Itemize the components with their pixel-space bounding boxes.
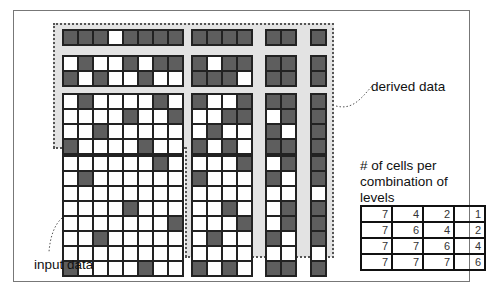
counts-row: 7776 — [361, 254, 485, 270]
counts-cell: 2 — [423, 206, 454, 222]
input-data-label: input data — [34, 257, 93, 272]
counts-cell: 4 — [423, 222, 454, 238]
counts-cell: 7 — [392, 238, 423, 254]
counts-cell: 4 — [454, 238, 485, 254]
counts-cell: 7 — [361, 238, 392, 254]
counts-cell: 7 — [392, 254, 423, 270]
counts-cell: 7 — [361, 222, 392, 238]
counts-cell: 7 — [423, 254, 454, 270]
counts-cell: 4 — [392, 206, 423, 222]
counts-title-line1: # of cells per — [360, 158, 437, 173]
counts-cell: 7 — [361, 254, 392, 270]
counts-cell: 6 — [423, 238, 454, 254]
counts-cell: 6 — [392, 222, 423, 238]
counts-title-line2: combination of — [360, 174, 448, 189]
counts-row: 7421 — [361, 206, 485, 222]
counts-cell: 7 — [361, 206, 392, 222]
counts-title-line3: levels — [360, 190, 395, 205]
counts-cell: 2 — [454, 222, 485, 238]
counts-row: 7642 — [361, 222, 485, 238]
counts-cell: 6 — [454, 254, 485, 270]
counts-table: 7421764277647776 — [360, 205, 486, 271]
counts-cell: 1 — [454, 206, 485, 222]
counts-row: 7764 — [361, 238, 485, 254]
derived-data-label: derived data — [371, 79, 445, 94]
